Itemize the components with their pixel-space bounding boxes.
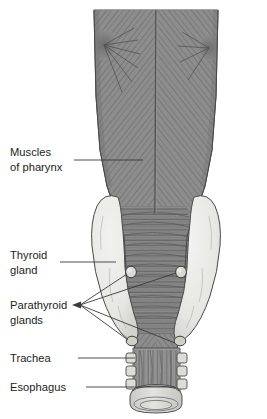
parathyroid-superior-left (126, 266, 137, 278)
label-parathyroid-glands-line1: Parathyroid (10, 299, 67, 311)
cartilage-ring-right-1 (177, 353, 187, 363)
trachea-cut-end (130, 385, 182, 414)
cartilage-ring-right-2 (177, 366, 187, 376)
parathyroid-superior-right-highlight (177, 268, 181, 273)
trachea-group (126, 346, 187, 413)
cartilage-ring-left-2 (126, 366, 136, 376)
label-thyroid-gland-line1: Thyroid (10, 249, 47, 261)
parathyroid-inferior-left (126, 336, 138, 346)
anatomy-figure: Muscles of pharynx Thyroid gland Parathy… (0, 0, 267, 419)
parathyroid-superior-right (176, 266, 187, 278)
anatomy-illustration: Muscles of pharynx Thyroid gland Parathy… (0, 0, 267, 419)
label-parathyroid-glands-line2: glands (10, 314, 43, 326)
label-muscles-of-pharynx-line1: Muscles (10, 146, 51, 158)
label-esophagus: Esophagus (10, 381, 66, 393)
cartilage-ring-right-3 (177, 379, 187, 389)
esophagus-cuff (130, 386, 182, 413)
label-thyroid-gland-line2: gland (10, 264, 37, 276)
label-muscles-of-pharynx-line2: of pharynx (10, 161, 63, 173)
parathyroid-superior-left-highlight (127, 268, 131, 273)
label-trachea: Trachea (10, 352, 51, 364)
cartilage-ring-left-3 (126, 379, 136, 389)
parathyroid-inferior-right (174, 336, 186, 346)
